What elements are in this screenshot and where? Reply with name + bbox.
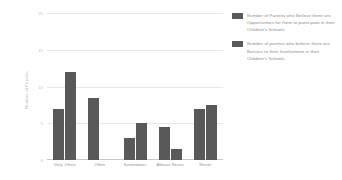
bar-group [47,13,82,160]
y-tick-label-20: 20 [38,11,43,16]
bar [206,105,217,160]
x-axis-label: Very Often [47,162,82,167]
bar-group [188,13,223,160]
bar-chart: Number of Parents 20 15 10 5 0 Very Ofte… [0,0,342,180]
bar-group [153,13,188,160]
x-axis-label: Often [82,162,117,167]
bar-group [82,13,117,160]
x-axis-label: Never [188,162,223,167]
bar [159,127,170,160]
bar [124,138,135,160]
legend-item[interactable]: Number of Parents who Believe there are … [232,12,336,33]
y-tick-label-15: 15 [38,47,43,52]
bar [53,109,64,160]
bar [194,109,205,160]
legend-swatch-icon [232,13,243,19]
y-axis-title: Number of Parents [24,71,29,109]
bar-groups [47,13,223,160]
bar [88,98,99,160]
legend-item[interactable]: Number of parents who believe there are … [232,40,336,61]
legend-label: Number of Parents who Believe there are … [247,12,336,33]
legend-swatch-icon [232,41,243,47]
bar [171,149,182,160]
chart-legend: Number of Parents who Believe there are … [232,12,336,69]
x-axis-labels: Very OftenOftenSometimesAlmost NeverNeve… [47,162,223,167]
plot-area: 20 15 10 5 0 [47,13,223,160]
bar-group [117,13,152,160]
legend-label: Number of parents who believe there are … [247,40,336,61]
x-axis-label: Sometimes [117,162,152,167]
y-tick-label-10: 10 [38,84,43,89]
bar [136,123,147,160]
y-tick-label-0: 0 [41,158,43,163]
y-tick-label-5: 5 [41,121,43,126]
bar [65,72,76,160]
x-axis-label: Almost Never [153,162,188,167]
